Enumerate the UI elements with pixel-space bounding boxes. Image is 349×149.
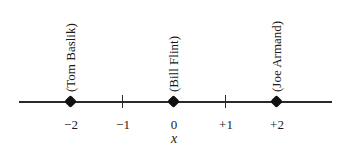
point-label-tom-baslik: (Tom Baslik) xyxy=(64,23,78,92)
tick-label: −2 xyxy=(51,117,91,133)
point-label-joe-armand: (Joe Armand) xyxy=(270,21,284,92)
tick-mark-minus-1 xyxy=(122,95,123,108)
point-marker-joe-armand xyxy=(270,95,283,108)
tick-mark-plus-1 xyxy=(225,95,226,108)
tick-label: +1 xyxy=(206,117,246,133)
tick-label: +2 xyxy=(257,117,297,133)
tick-label: −1 xyxy=(103,117,143,133)
number-line-diagram: −2 −1 0 +1 +2 x (Tom Baslik) (Bill Flint… xyxy=(0,0,349,149)
point-marker-bill-flint xyxy=(167,95,180,108)
point-marker-tom-baslik xyxy=(64,95,77,108)
axis-variable-label: x xyxy=(164,131,184,147)
point-label-bill-flint: (Bill Flint) xyxy=(167,36,181,92)
